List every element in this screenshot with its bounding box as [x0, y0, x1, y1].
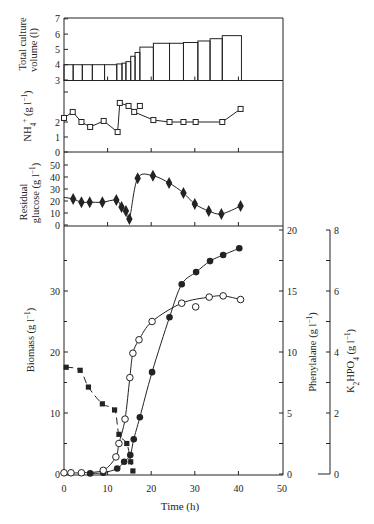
filled-circle-marker	[130, 436, 137, 443]
open-circle-marker	[220, 293, 227, 300]
y-tick-label: 30	[50, 286, 60, 297]
filled-circle-marker	[178, 281, 185, 288]
filled-diamond-marker	[78, 196, 84, 208]
right-tick-label: 5	[287, 408, 292, 419]
volume-bar	[222, 36, 241, 81]
filled-square-marker	[86, 384, 91, 389]
filled-diamond-marker	[70, 193, 76, 205]
filled-circle-marker	[149, 369, 156, 376]
panel-biomass-phenylalanine-phosphate: 0102030051015200246801020304050Time (h)B…	[22, 225, 360, 513]
filled-square-marker	[78, 368, 83, 373]
figure: 34567Total culturevolume (l)012NH4+ (g l…	[0, 0, 374, 524]
volume-bar	[105, 65, 117, 81]
open-square-marker	[167, 120, 172, 125]
right2-tick-label: 0	[334, 469, 339, 480]
y-tick-label: 10	[50, 408, 60, 419]
volume-bar	[198, 41, 210, 81]
volume-bar	[117, 64, 122, 81]
open-circle-marker	[113, 454, 120, 461]
right2-axis-label: K2HPO4 (g l−1)	[342, 328, 360, 393]
filled-square-marker	[116, 432, 121, 437]
open-circle-marker	[192, 304, 199, 311]
filled-square-marker	[100, 401, 105, 406]
y-tick-label: 4	[55, 59, 60, 70]
open-square-marker	[193, 120, 198, 125]
series-line	[90, 248, 239, 473]
open-square-marker	[101, 118, 106, 123]
y-axis-label: volume (l)	[28, 27, 40, 72]
right2-tick-label: 4	[334, 347, 339, 358]
volume-bar	[140, 47, 154, 80]
y-tick-label: 10	[50, 208, 60, 219]
open-square-marker	[88, 124, 93, 129]
filled-diamond-marker	[180, 187, 186, 199]
volume-bar	[153, 43, 169, 80]
y-tick-label: 0	[55, 220, 60, 231]
series-phenylalane-off-curve-point-	[192, 304, 199, 311]
y-tick-label: 50	[50, 160, 60, 171]
filled-circle-marker	[127, 452, 134, 459]
y-axis-label: Total culture	[17, 17, 28, 71]
open-circle-marker	[78, 469, 85, 476]
open-square-marker	[181, 120, 186, 125]
volume-bar	[92, 65, 104, 81]
series-nh4	[137, 103, 142, 108]
right2-tick-label: 2	[334, 408, 339, 419]
right-axis-label: Phenylalane (g l−1)	[304, 312, 319, 392]
right2-tick-label: 6	[334, 286, 339, 297]
volume-bar	[122, 63, 126, 80]
volume-bar	[126, 62, 131, 81]
volume-bar	[64, 65, 73, 81]
x-tick-label: 20	[146, 483, 156, 494]
open-circle-marker	[149, 318, 156, 325]
volume-bar	[170, 43, 184, 80]
panel-ammonium: 012NH4+ (g l−1)	[19, 90, 243, 158]
filled-diamond-marker	[87, 196, 93, 208]
filled-square-marker	[130, 468, 135, 473]
right-tick-label: 10	[287, 347, 297, 358]
filled-square-marker	[64, 365, 69, 370]
open-square-marker	[137, 103, 142, 108]
filled-square-marker	[112, 407, 117, 412]
series-line	[64, 174, 241, 220]
x-tick-label: 40	[233, 483, 243, 494]
series-phenylalane	[61, 293, 244, 477]
filled-circle-marker	[207, 258, 214, 265]
x-tick-label: 30	[190, 483, 200, 494]
y-tick-label: 1	[55, 132, 60, 143]
filled-circle-marker	[236, 245, 243, 252]
filled-circle-marker	[193, 269, 200, 276]
x-tick-label: 50	[277, 483, 287, 494]
filled-diamond-marker	[237, 200, 243, 212]
volume-bar	[210, 39, 222, 81]
open-square-marker	[132, 109, 137, 114]
volume-bar	[73, 65, 82, 81]
right-tick-label: 15	[287, 286, 297, 297]
open-square-marker	[126, 103, 131, 108]
right-tick-label: 20	[287, 225, 297, 236]
volume-bar	[131, 56, 135, 80]
filled-circle-marker	[121, 459, 128, 466]
open-circle-marker	[130, 350, 137, 357]
y-axis-label: glucose (g l−1)	[27, 162, 42, 223]
open-circle-marker	[100, 467, 107, 474]
open-circle-marker	[178, 300, 185, 307]
filled-diamond-marker	[150, 170, 156, 182]
fermentation-time-course-chart: 34567Total culturevolume (l)012NH4+ (g l…	[0, 0, 374, 524]
filled-diamond-marker	[218, 208, 224, 220]
x-axis-label: Time (h)	[161, 500, 200, 513]
filled-circle-marker	[166, 314, 173, 321]
filled-circle-marker	[137, 414, 144, 421]
open-square-marker	[79, 120, 84, 125]
filled-diamond-marker	[99, 196, 105, 208]
open-square-marker	[62, 115, 67, 120]
y-tick-label: 20	[50, 196, 60, 207]
filled-circle-marker	[220, 252, 227, 259]
filled-diamond-marker	[192, 198, 198, 210]
filled-diamond-marker	[166, 177, 172, 189]
series-biomass	[87, 245, 243, 477]
y-tick-label: 40	[50, 172, 60, 183]
open-square-marker	[70, 109, 75, 114]
volume-bar	[135, 52, 140, 80]
filled-diamond-marker	[113, 194, 119, 206]
